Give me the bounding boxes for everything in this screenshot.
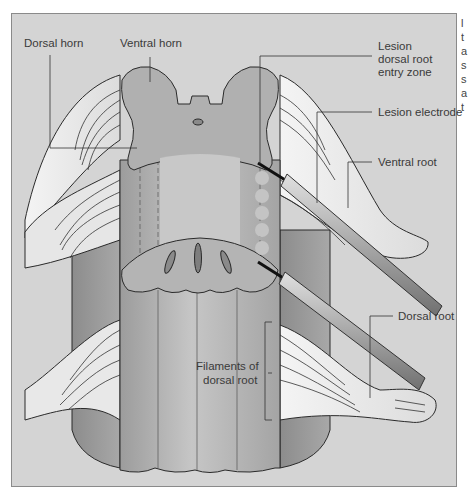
figure: Dorsal horn Ventral horn Lesion dorsal r…: [0, 0, 474, 498]
label-dorsal-root: Dorsal root: [398, 310, 454, 323]
cutoff-char: l: [461, 16, 474, 30]
label-lesion-electrode: Lesion electrode: [378, 106, 462, 119]
label-lesion-drez-line2: dorsal root: [378, 53, 432, 66]
cutoff-char: s: [461, 72, 474, 86]
label-lesion-drez-line1: Lesion: [378, 40, 412, 53]
label-ventral-horn: Ventral horn: [120, 37, 182, 50]
label-dorsal-horn: Dorsal horn: [24, 37, 83, 50]
label-filaments-line1: Filaments of: [196, 360, 259, 373]
cutoff-adjacent-text: l t a s s a t: [461, 16, 474, 114]
label-lesion-drez-line3: entry zone: [378, 66, 432, 79]
label-ventral-root: Ventral root: [378, 156, 437, 169]
cutoff-char: a: [461, 86, 474, 100]
cutoff-char: t: [461, 30, 474, 44]
label-filaments-line2: dorsal root: [203, 374, 257, 387]
cutoff-char: t: [461, 100, 474, 114]
cutoff-char: s: [461, 58, 474, 72]
cutoff-char: a: [461, 44, 474, 58]
